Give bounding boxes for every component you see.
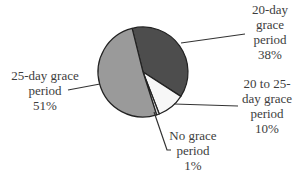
- leader-line-20-day: [181, 34, 245, 43]
- label-line: period: [248, 32, 292, 47]
- leader-line-20-to-25: [174, 104, 238, 106]
- label-percent: 1%: [168, 158, 218, 173]
- label-line: 25-day grace: [10, 68, 80, 83]
- label-line: 20-day: [248, 2, 292, 17]
- label-no-grace: No grace period 1%: [168, 128, 218, 173]
- label-percent: 10%: [238, 121, 296, 136]
- label-line: grace: [248, 17, 292, 32]
- label-20-to-25-day: 20 to 25- day grace period 10%: [238, 76, 296, 136]
- label-line: period: [238, 106, 296, 121]
- label-line: day grace: [238, 91, 296, 106]
- label-20-day: 20-day grace period 38%: [248, 2, 292, 62]
- label-line: period: [168, 143, 218, 158]
- label-percent: 51%: [10, 98, 80, 113]
- label-line: No grace: [168, 128, 218, 143]
- label-line: 20 to 25-: [238, 76, 296, 91]
- label-line: period: [10, 83, 80, 98]
- label-25-day: 25-day grace period 51%: [10, 68, 80, 113]
- label-percent: 38%: [248, 47, 292, 62]
